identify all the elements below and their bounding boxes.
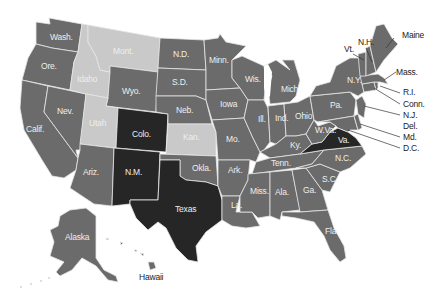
label-pa: Pa. (330, 100, 342, 110)
label-ar: Ark. (228, 165, 242, 175)
label-ri: R.I. (403, 87, 415, 97)
label-or: Ore. (41, 61, 57, 71)
label-nv: Nev. (57, 106, 73, 116)
label-ak: Alaska (65, 232, 90, 242)
leader-ri (380, 86, 400, 93)
label-wa: Wash. (50, 32, 73, 42)
label-mn: Minn. (209, 55, 229, 65)
label-co: Colo. (132, 129, 151, 139)
label-ga: Ga. (303, 185, 316, 195)
label-de: Del. (403, 121, 417, 131)
label-al: Ala. (275, 187, 289, 197)
label-nd: N.D. (173, 49, 189, 59)
label-ut: Utah (89, 118, 107, 128)
label-vt: Vt. (344, 44, 354, 54)
label-ky: Ky. (290, 140, 301, 150)
label-tn: Tenn. (271, 158, 291, 168)
leader-nj (364, 106, 400, 115)
state-fl[interactable] (282, 210, 346, 262)
state-hi[interactable] (106, 238, 156, 270)
label-ma: Mass. (396, 67, 418, 77)
label-mo: Mo. (226, 134, 240, 144)
label-wv: W.Va. (315, 125, 336, 135)
label-mi: Mich. (281, 84, 300, 94)
label-ca: Calif. (26, 124, 44, 134)
label-nc: N.C. (335, 153, 351, 163)
ak-aleutians (20, 277, 50, 288)
state-me[interactable] (370, 24, 398, 72)
label-wi: Wis. (245, 74, 261, 84)
label-tx: Texas (175, 204, 196, 214)
label-ks: Kan. (183, 132, 200, 142)
label-in: Ind. (275, 113, 288, 123)
label-nj: N.J. (403, 110, 417, 120)
label-me: Maine (402, 30, 425, 40)
label-mt: Mont. (113, 46, 133, 56)
label-ny: N.Y. (347, 75, 362, 85)
label-nh: N.H. (358, 37, 374, 47)
label-sd: S.D. (172, 77, 188, 87)
leader-ma (384, 72, 396, 80)
label-oh: Ohio (295, 111, 313, 121)
label-wy: Wyo. (122, 86, 141, 96)
label-fl: Fla. (325, 226, 338, 236)
label-sc: S.C. (322, 174, 338, 184)
label-az: Ariz. (83, 167, 99, 177)
label-la: La. (231, 200, 242, 210)
label-nm: N.M. (125, 167, 142, 177)
label-va: Va. (338, 135, 350, 145)
state-ak[interactable] (50, 208, 118, 282)
label-hi: Hawaii (139, 272, 164, 282)
label-md: Md. (403, 132, 417, 142)
label-il: Ill. (258, 114, 266, 124)
label-ms: Miss. (250, 186, 269, 196)
label-ok: Okla. (192, 163, 211, 173)
leader-ct (374, 88, 400, 104)
label-ct: Conn. (403, 99, 425, 109)
label-dc: D.C. (403, 143, 419, 153)
label-ne: Neb. (176, 105, 193, 115)
leader-md (360, 124, 400, 137)
label-id: Idaho (77, 74, 98, 84)
label-ia: Iowa (220, 99, 238, 109)
us-choropleth-map: Wash. Ore. Calif. Nev. Idaho Mont. Wyo. … (0, 0, 438, 300)
state-nm[interactable] (112, 148, 160, 206)
